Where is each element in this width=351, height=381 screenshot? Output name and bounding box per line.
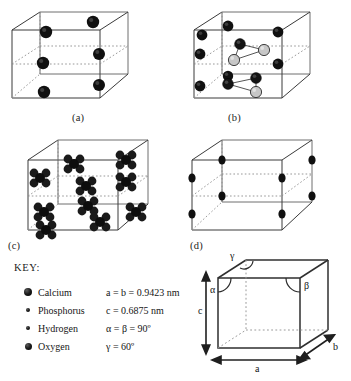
param-a-b: a = b = 0.9423 nm <box>106 283 180 301</box>
unit-cell-panel-a <box>0 0 150 112</box>
param-alpha-beta: α = β = 90º <box>106 319 180 337</box>
cube-label-gamma: γ <box>230 250 234 261</box>
figure-root: (a) <box>0 0 351 381</box>
legend-label-hydrogen: Hydrogen <box>38 323 78 334</box>
unit-cell-panel-c <box>14 130 174 248</box>
unit-cell-panel-b <box>178 0 338 112</box>
key-title: KEY: <box>14 262 40 273</box>
cube-label-c: c <box>198 305 202 316</box>
legend-label-oxygen: Oxygen <box>38 341 70 352</box>
hydrogen-marker-icon <box>18 326 38 331</box>
cube-label-beta: β <box>304 280 309 291</box>
panel-label-d: (d) <box>190 240 203 251</box>
cube-label-a: a <box>255 363 259 374</box>
legend-label-phosphorus: Phosphorus <box>38 305 85 316</box>
panel-label-c: (c) <box>8 240 20 251</box>
lattice-parameters: a = b = 0.9423 nm c = 0.6875 nm α = β = … <box>106 283 180 355</box>
param-c: c = 0.6875 nm <box>106 301 180 319</box>
labelled-unit-cell-diagram: α β γ c a b <box>200 256 351 381</box>
unit-cell-panel-d <box>180 130 340 248</box>
labelled-cell-svg <box>200 256 351 381</box>
panel-label-a: (a) <box>72 112 84 123</box>
calcium-marker-icon <box>18 288 38 296</box>
phosphorus-marker-icon <box>18 308 38 313</box>
panel-label-b: (b) <box>228 112 241 123</box>
param-gamma: γ = 60º <box>106 337 180 355</box>
oxygen-marker-icon <box>18 343 38 350</box>
cube-label-alpha: α <box>210 284 215 295</box>
legend-label-calcium: Calcium <box>38 287 72 298</box>
cube-label-b: b <box>333 341 338 352</box>
